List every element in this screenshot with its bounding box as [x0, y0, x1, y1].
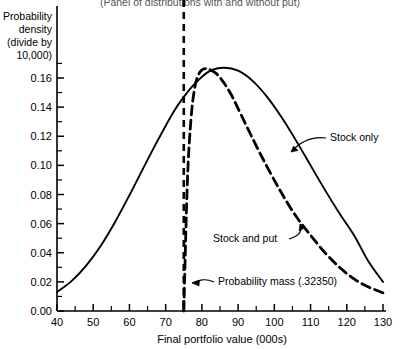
x-tick-label: 80: [196, 316, 208, 328]
x-tick-label: 50: [87, 316, 99, 328]
y-tick-label: 0.10: [31, 159, 52, 171]
y-axis-title-line-1: Probability: [3, 10, 53, 22]
probability-density-chart: (Panel of distributions with and without…: [0, 0, 402, 349]
y-tick-label: 0.12: [31, 130, 52, 142]
x-tick-label: 100: [265, 316, 283, 328]
x-tick-label: 90: [232, 316, 244, 328]
y-axis-title-line-3: (divide by: [7, 36, 53, 48]
x-tick-label: 120: [338, 316, 356, 328]
y-axis-title-line-4: 10,000): [16, 49, 52, 61]
chart-canvas: (Panel of distributions with and without…: [0, 0, 402, 349]
y-tick-label: 0.02: [31, 276, 52, 288]
y-tick-label: 0.08: [31, 189, 52, 201]
x-tick-label: 60: [123, 316, 135, 328]
annotation-label-stock-only: Stock only: [330, 131, 379, 143]
x-axis-tick-labels: 405060708090100110120130: [51, 316, 392, 328]
y-axis-title: Probability density (divide by 10,000): [3, 10, 53, 61]
y-axis-title-line-2: density: [19, 23, 53, 35]
annotation-label-probability-mass: Probability mass (.32350): [218, 275, 337, 287]
annotation-label-stock-and-put: Stock and put: [213, 232, 277, 244]
x-tick-label: 130: [374, 316, 392, 328]
chart-title: (Panel of distributions with and without…: [100, 0, 300, 8]
y-axis-tick-labels: 0.000.020.040.060.080.100.120.140.16: [31, 72, 52, 317]
y-tick-label: 0.04: [31, 247, 52, 259]
y-axis-ticks: [57, 63, 64, 311]
series-curve-stock-only: [57, 68, 383, 292]
y-tick-label: 0.14: [31, 101, 52, 113]
x-axis-title: Final portfolio value (000s): [157, 333, 287, 345]
x-tick-label: 70: [160, 316, 172, 328]
annotations-group: Stock onlyStock and putProbability mass …: [192, 131, 379, 287]
y-tick-label: 0.00: [31, 305, 52, 317]
x-axis-ticks: [57, 304, 383, 311]
x-tick-label: 40: [51, 316, 63, 328]
y-tick-label: 0.16: [31, 72, 52, 84]
annotation-leader-stock-and-put: [289, 224, 301, 239]
x-tick-label: 110: [302, 316, 320, 328]
y-tick-label: 0.06: [31, 218, 52, 230]
